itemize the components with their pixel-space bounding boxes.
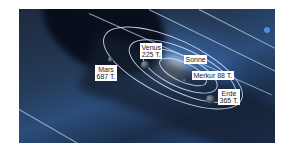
label-mercury: Merkur 88 T. <box>192 71 234 80</box>
distant-planet <box>264 27 270 33</box>
planet-earth <box>206 95 215 104</box>
mars-period: 687 T. <box>97 73 116 81</box>
planet-mars <box>108 57 113 62</box>
solar-system-illustration: Mars 687 T. Venus 225 T. Sonne Merkur 88… <box>19 9 275 143</box>
earth-period: 365 T. <box>220 97 239 105</box>
label-venus: Venus 225 T. <box>140 43 162 59</box>
sun-name: Sonne <box>186 56 206 63</box>
planet-venus <box>141 61 149 69</box>
mercury-name-period: Merkur 88 T. <box>194 72 233 79</box>
venus-name: Venus <box>142 44 161 52</box>
venus-period: 225 T. <box>142 51 161 59</box>
label-earth: Erde 365 T. <box>218 89 240 105</box>
planet-mercury <box>183 79 186 82</box>
label-sun: Sonne <box>184 55 207 64</box>
earth-name: Erde <box>220 90 239 98</box>
label-mars: Mars 687 T. <box>95 65 117 81</box>
mars-name: Mars <box>97 66 116 74</box>
